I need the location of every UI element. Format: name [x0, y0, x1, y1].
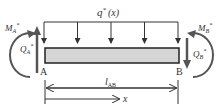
moment-a-label: MA* [4, 22, 19, 34]
node-b-label: B [176, 66, 183, 77]
beam [45, 48, 179, 63]
moment-b-label: MB* [197, 22, 212, 34]
shear-a-label: QA* [20, 43, 33, 55]
load-label: q*(x) [97, 6, 120, 19]
node-a-label: A [40, 66, 48, 77]
distributed-load [44, 22, 178, 43]
length-label: lAB [105, 76, 116, 88]
beam-diagram: q*(x) A B QA* MA* QB* MB* lAB x [0, 0, 224, 111]
x-label: x [122, 93, 128, 104]
shear-b-label: QB* [193, 48, 206, 60]
shear-b-arrow [183, 38, 191, 69]
